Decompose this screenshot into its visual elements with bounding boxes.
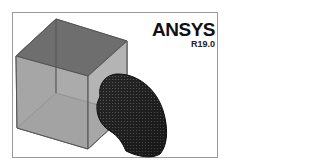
brand-title: ANSYS <box>152 20 215 39</box>
version-label: R19.0 <box>152 39 215 49</box>
ansys-logo: ANSYS R19.0 <box>152 20 215 49</box>
pipe-elbow-shading <box>97 74 167 157</box>
pipe-elbow[interactable] <box>97 74 167 157</box>
